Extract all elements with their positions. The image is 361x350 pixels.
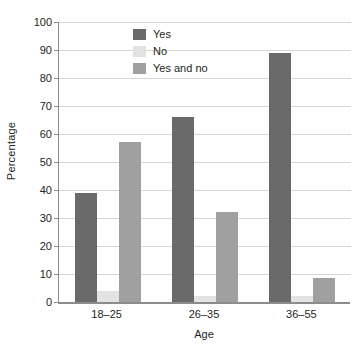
x-tick-label: 18–25	[91, 308, 122, 320]
bar-chart: Percentage 0102030405060708090100 18–252…	[0, 0, 361, 350]
legend-label: Yes and no	[153, 63, 208, 74]
y-tick-label: 30	[18, 213, 52, 224]
y-tick-label: 20	[18, 241, 52, 252]
bar	[313, 278, 335, 302]
legend: YesNoYes and no	[133, 27, 208, 75]
y-tick-label: 50	[18, 157, 52, 168]
gridline	[59, 218, 351, 219]
bar	[216, 212, 238, 302]
y-tick-label: 60	[18, 129, 52, 140]
x-tick-label: 26–35	[189, 308, 220, 320]
legend-item: Yes	[133, 27, 208, 41]
y-tick-label: 100	[18, 17, 52, 28]
legend-swatch-icon	[133, 63, 146, 74]
y-tick-label: 10	[18, 269, 52, 280]
gridline	[59, 134, 351, 135]
y-tick-label: 70	[18, 101, 52, 112]
legend-label: No	[153, 46, 167, 57]
legend-item: Yes and no	[133, 61, 208, 75]
gridline	[59, 106, 351, 107]
legend-swatch-icon	[133, 46, 146, 57]
gridline	[59, 22, 351, 23]
y-tick-label: 90	[18, 45, 52, 56]
bar	[75, 193, 97, 302]
y-tick-label: 40	[18, 185, 52, 196]
bar	[119, 142, 141, 302]
gridline	[59, 190, 351, 191]
gridline	[59, 162, 351, 163]
legend-item: No	[133, 44, 208, 58]
y-tick-label: 80	[18, 73, 52, 84]
y-tick-label: 0	[18, 297, 52, 308]
gridline	[59, 274, 351, 275]
bar	[269, 53, 291, 302]
gridline	[59, 246, 351, 247]
legend-label: Yes	[153, 29, 171, 40]
bar	[172, 117, 194, 302]
bar	[97, 291, 119, 302]
x-axis-title: Age	[58, 328, 350, 340]
legend-swatch-icon	[133, 29, 146, 40]
y-axis-title-label: Percentage	[5, 122, 17, 180]
x-tick-label: 36–55	[286, 308, 317, 320]
x-axis-line	[58, 302, 350, 304]
gridline	[59, 78, 351, 79]
